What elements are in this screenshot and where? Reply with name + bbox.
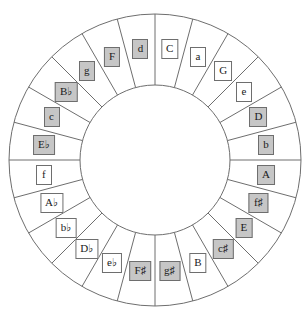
key-label-f[interactable]: f [36, 165, 52, 185]
key-label-Aflat[interactable]: A♭ [40, 193, 63, 213]
key-label-F[interactable]: F [104, 47, 120, 67]
key-label-csharp[interactable]: c♯ [213, 239, 233, 259]
key-label-E[interactable]: E [235, 218, 252, 238]
key-label-B[interactable]: B [189, 253, 206, 273]
key-label-c[interactable]: c [44, 107, 60, 127]
key-label-d[interactable]: d [132, 39, 148, 59]
key-label-e[interactable]: e [236, 82, 252, 102]
key-label-G[interactable]: G [214, 61, 232, 81]
key-label-Fsharp[interactable]: F♯ [130, 261, 152, 281]
key-label-g[interactable]: g [79, 61, 95, 81]
inner-circle [80, 85, 230, 235]
key-label-a[interactable]: a [190, 47, 206, 67]
key-label-Eflat[interactable]: E♭ [33, 135, 55, 155]
key-label-eflat[interactable]: e♭ [102, 253, 122, 273]
key-label-Dflat[interactable]: D♭ [75, 239, 98, 259]
key-label-D[interactable]: D [249, 107, 267, 127]
key-label-Bflat[interactable]: B♭ [55, 82, 78, 102]
key-label-gsharp[interactable]: g♯ [159, 261, 180, 281]
key-label-b[interactable]: b [258, 135, 274, 155]
key-label-fsharp[interactable]: f♯ [249, 193, 268, 213]
key-label-bflat[interactable]: b♭ [56, 218, 77, 238]
wheel-svg [0, 0, 307, 315]
key-label-A[interactable]: A [257, 165, 275, 185]
key-label-C[interactable]: C [161, 39, 178, 59]
circle-of-fifths-diagram: CaGeDbAf♯Ec♯Bg♯F♯e♭D♭b♭A♭fE♭cB♭gFd [0, 0, 307, 315]
